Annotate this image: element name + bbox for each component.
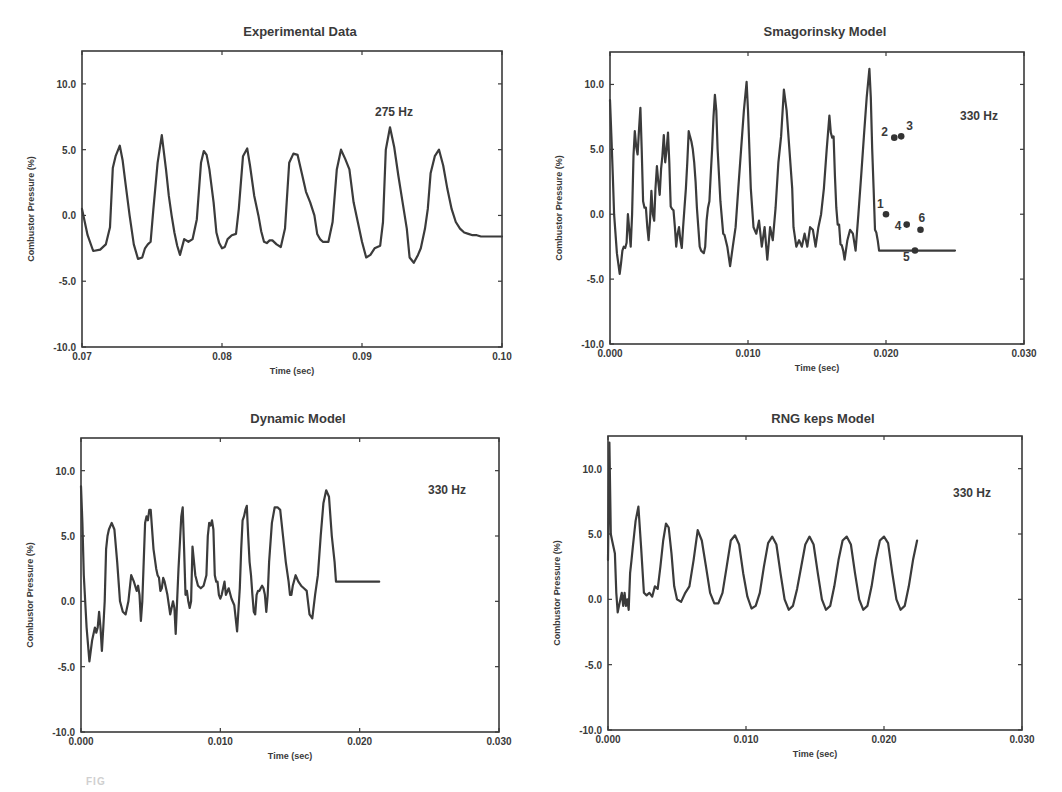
figure-caption-fragment: FIG	[86, 776, 106, 787]
frequency-annotation: 330 Hz	[953, 486, 991, 500]
x-tick-label: 0.020	[871, 734, 896, 745]
y-tick-label: -5.0	[585, 660, 603, 671]
y-tick-label: 5.0	[588, 529, 602, 540]
x-axis-label: Time (sec)	[793, 749, 837, 759]
x-tick-label: 0.010	[733, 734, 758, 745]
x-tick-label: 0.030	[1009, 734, 1034, 745]
chart-rng-keps: RNG keps Model10.05.00.0-5.0-10.00.0000.…	[0, 0, 1062, 792]
x-tick-label: 0.000	[595, 734, 620, 745]
chart-title: RNG keps Model	[771, 411, 874, 426]
y-tick-label: 0.0	[588, 594, 602, 605]
data-series-line	[608, 443, 917, 613]
plot-frame	[608, 436, 1022, 730]
y-tick-label: 10.0	[583, 464, 603, 475]
y-axis-label: Combustor Pressure (%)	[552, 540, 562, 646]
